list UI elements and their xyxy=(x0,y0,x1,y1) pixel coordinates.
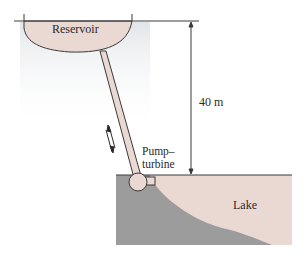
diagram-canvas: Reservoir 40 m Pump– turbine Lake xyxy=(0,0,305,259)
diagram-graphic xyxy=(0,0,305,259)
pump-turbine-label-line1: Pump– xyxy=(142,145,175,158)
lake-label: Lake xyxy=(233,198,257,213)
pump-turbine-icon xyxy=(129,173,147,191)
height-dimension-label: 40 m xyxy=(199,95,223,110)
reservoir-label: Reservoir xyxy=(52,22,99,37)
pump-turbine-label: Pump– turbine xyxy=(142,145,175,171)
elevation-dimension-line xyxy=(189,22,193,174)
pump-turbine-label-line2: turbine xyxy=(142,158,175,171)
